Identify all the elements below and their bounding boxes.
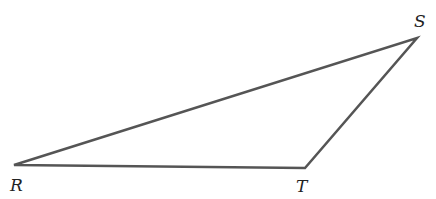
triangle-canvas: R T S: [0, 0, 436, 199]
vertex-label-s: S: [414, 11, 426, 31]
vertex-label-t: T: [296, 176, 309, 196]
triangle-rst: [14, 38, 417, 168]
triangle-diagram: R T S: [0, 0, 436, 199]
vertex-label-r: R: [9, 175, 23, 195]
